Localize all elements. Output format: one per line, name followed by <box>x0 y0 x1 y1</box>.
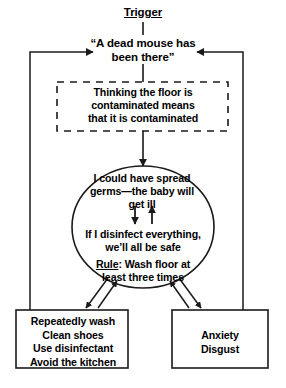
appraisal-rule-keyword: Rule <box>96 258 119 270</box>
assumption-text: Thinking the floor is contaminated means… <box>60 86 226 126</box>
emotion-text: Anxiety Disgust <box>172 329 268 356</box>
trigger-heading: Trigger <box>0 6 286 20</box>
appraisal-primary-text: I could have spread germs—the baby will … <box>72 172 212 211</box>
behaviour-text: Repeatedly wash Clean shoes Use disinfec… <box>18 315 128 369</box>
ocd-formulation-diagram: Trigger “A dead mouse has been there” Th… <box>0 0 286 388</box>
trigger-heading-text: Trigger <box>124 6 162 18</box>
connector-behaviour-to-appraisal <box>98 281 117 308</box>
connector-emotion-to-appraisal <box>170 281 189 308</box>
appraisal-secondary-text: If I disinfect everything, we’ll all be … <box>72 228 214 254</box>
situation-text: “A dead mouse has been there” <box>63 37 223 64</box>
appraisal-rule-text: Rule: Wash floor at least three times <box>72 258 214 284</box>
